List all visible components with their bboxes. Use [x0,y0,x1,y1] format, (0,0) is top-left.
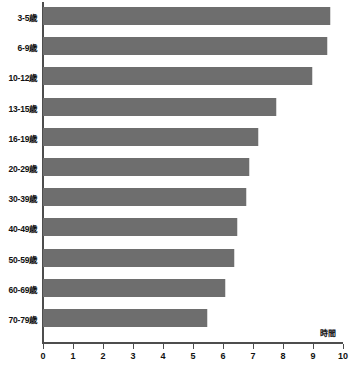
bar [43,37,328,55]
x-axis-tick-label: 8 [271,351,295,361]
category-label: 20-29歳 [0,162,38,174]
bar [43,67,313,85]
x-axis-tick-label: 1 [61,351,85,361]
category-label: 30-39歳 [0,192,38,204]
bar [43,128,259,146]
x-axis-tick-label: 6 [211,351,235,361]
x-axis-unit-label: 時間 [320,327,336,338]
x-axis-tick-mark [253,344,254,349]
x-axis-tick-mark [103,344,104,349]
x-axis-tick-mark [223,344,224,349]
category-label: 6-9歳 [0,41,38,53]
bar [43,188,247,206]
x-axis-tick-mark [163,344,164,349]
bar-row [43,279,226,297]
x-axis-tick-label: 7 [241,351,265,361]
x-axis-tick-label: 9 [301,351,325,361]
bar-row [43,158,250,176]
category-label: 50-59歳 [0,253,38,265]
x-axis-tick-mark [343,344,344,349]
category-label: 60-69歳 [0,283,38,295]
bar-row [43,67,313,85]
bar [43,98,277,116]
x-axis-tick-label: 5 [181,351,205,361]
bar-row [43,218,238,236]
x-axis-tick-label: 3 [121,351,145,361]
x-axis-tick-label: 10 [331,351,351,361]
bar-chart: 時間 3-5歳6-9歳10-12歳13-15歳16-19歳20-29歳30-39… [0,0,351,370]
x-axis-tick-label: 2 [91,351,115,361]
category-label: 70-79歳 [0,313,38,325]
x-axis-tick-mark [43,344,44,349]
bar-row [43,128,259,146]
bar-row [43,7,331,25]
bar [43,309,208,327]
x-axis-tick-mark [283,344,284,349]
x-axis-tick-mark [313,344,314,349]
category-label: 10-12歳 [0,71,38,83]
x-axis-tick-label: 4 [151,351,175,361]
category-label: 16-19歳 [0,132,38,144]
category-label: 3-5歳 [0,11,38,23]
bar-row [43,249,235,267]
category-label: 13-15歳 [0,102,38,114]
bar [43,279,226,297]
bar [43,249,235,267]
bar-row [43,309,208,327]
x-axis-tick-mark [133,344,134,349]
bar [43,7,331,25]
x-axis-tick-label: 0 [31,351,55,361]
bar [43,158,250,176]
bar [43,218,238,236]
bar-row [43,188,247,206]
bar-row [43,98,277,116]
x-axis-tick-mark [193,344,194,349]
x-axis-tick-mark [73,344,74,349]
bar-row [43,37,328,55]
category-label: 40-49歳 [0,222,38,234]
